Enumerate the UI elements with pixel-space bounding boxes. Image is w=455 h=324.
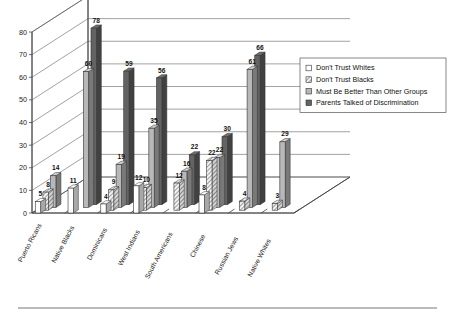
bar bbox=[199, 192, 209, 213]
bar-value-label: 22 bbox=[208, 149, 216, 156]
legend-swatch bbox=[306, 77, 312, 83]
bar-value-label: 8 bbox=[46, 181, 50, 188]
bar-value-label: 12 bbox=[175, 172, 183, 179]
bar-value-label: 30 bbox=[223, 125, 231, 132]
x-axis-category-label: Puerto Ricans bbox=[16, 222, 43, 264]
bar-value-label: 56 bbox=[158, 67, 166, 74]
bar-value-label: 9 bbox=[112, 178, 116, 185]
x-axis-category-label: Native Whites bbox=[246, 237, 272, 278]
bar-value-label: 12 bbox=[135, 174, 143, 181]
legend-label: Don't Trust Whites bbox=[316, 63, 375, 72]
y-axis-tick-label: 70 bbox=[19, 50, 27, 59]
legend-label: Must Be Better Than Other Groups bbox=[316, 87, 428, 96]
bar-value-label: 29 bbox=[281, 130, 289, 137]
x-axis-category-label: West Indians bbox=[116, 228, 141, 266]
bar bbox=[280, 139, 290, 208]
bar-value-label: 78 bbox=[92, 17, 100, 24]
bar-value-label: 14 bbox=[52, 164, 60, 171]
bar bbox=[134, 183, 144, 213]
bar-value-label: 59 bbox=[125, 60, 133, 67]
bar-value-label: 10 bbox=[143, 176, 151, 183]
bar-value-label: 22 bbox=[191, 143, 199, 150]
bar-value-label: 16 bbox=[183, 160, 191, 167]
bar-value-label: 66 bbox=[256, 44, 264, 51]
x-axis-category-label: Chinese bbox=[189, 233, 207, 258]
bar-value-label: 19 bbox=[118, 153, 126, 160]
bar-value-label: 22 bbox=[216, 146, 224, 153]
bar bbox=[83, 68, 93, 207]
bar-value-label: 5 bbox=[39, 190, 43, 197]
legend-swatch bbox=[306, 88, 312, 94]
x-axis-category-label: Dominicans bbox=[85, 226, 108, 261]
bar-value-label: 8 bbox=[202, 184, 206, 191]
y-axis-tick-label: 40 bbox=[19, 118, 27, 127]
bar bbox=[68, 185, 78, 213]
x-axis-category-label: South Americans bbox=[143, 230, 174, 279]
chart-legend: Don't Trust WhitesDon't Trust BlacksMust… bbox=[300, 58, 446, 112]
y-axis-tick-label: 60 bbox=[19, 73, 27, 82]
legend-label: Don't Trust Blacks bbox=[316, 75, 374, 84]
y-axis-tick-label: 80 bbox=[19, 28, 27, 37]
y-axis-tick-label: 0 bbox=[23, 209, 27, 218]
bar-value-label: 61 bbox=[249, 58, 257, 65]
bar-value-label: 11 bbox=[70, 177, 77, 184]
y-axis-tick-label: 10 bbox=[19, 186, 27, 195]
bar-value-label: 3 bbox=[276, 192, 280, 199]
bar-chart-3d: 01020304050607080 7859562230661460193516… bbox=[0, 0, 455, 324]
bar-value-label: 4 bbox=[104, 193, 108, 200]
x-axis-category-label: Native Blacks bbox=[50, 224, 76, 264]
bar-value-label: 60 bbox=[85, 60, 93, 67]
y-axis-tick-label: 30 bbox=[19, 141, 27, 150]
bar-value-label: 35 bbox=[150, 117, 158, 124]
legend-label: Parents Talked of Discrimination bbox=[316, 98, 419, 107]
legend-swatch bbox=[306, 100, 312, 106]
y-axis-tick-label: 50 bbox=[19, 95, 27, 104]
bar bbox=[35, 198, 45, 213]
legend-swatch bbox=[306, 65, 312, 71]
x-axis-category-label: Russian Jews bbox=[213, 235, 239, 276]
chart-container: 01020304050607080 7859562230661460193516… bbox=[0, 0, 455, 324]
bar-value-label: 4 bbox=[243, 190, 247, 197]
bar bbox=[174, 180, 184, 210]
bar bbox=[247, 66, 257, 207]
y-axis-tick-label: 20 bbox=[19, 163, 27, 172]
